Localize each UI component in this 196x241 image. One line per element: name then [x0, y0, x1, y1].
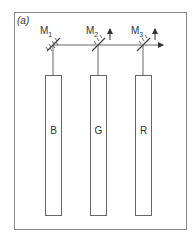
channel-label-b: B	[50, 125, 57, 136]
channel-bar-b	[46, 76, 62, 216]
channel-label-g: G	[95, 125, 103, 136]
mirror-label-m2: M2	[86, 25, 98, 38]
mirror-label-m1: M1	[40, 25, 52, 38]
panel-label: (a)	[17, 15, 29, 26]
channel-bar-r	[136, 76, 152, 216]
diagram-canvas: (a) M1 M2 M3 B G R	[0, 0, 196, 241]
mirror-label-m3: M3	[131, 25, 143, 38]
channel-bar-g	[91, 76, 107, 216]
channel-label-r: R	[140, 125, 147, 136]
